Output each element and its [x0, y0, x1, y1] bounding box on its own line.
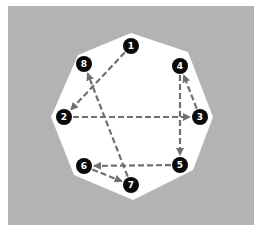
node-8: 8 [76, 56, 92, 72]
node-6: 6 [76, 158, 92, 174]
node-5: 5 [172, 157, 188, 173]
graph-diagram: 12345678 [0, 0, 262, 235]
node-label: 7 [128, 180, 134, 190]
node-7: 7 [123, 177, 139, 193]
node-label: 1 [128, 41, 134, 51]
node-label: 6 [81, 161, 87, 171]
node-2: 2 [56, 109, 72, 125]
node-4: 4 [172, 58, 188, 74]
node-label: 8 [81, 59, 87, 69]
edge-5-to-6 [94, 165, 171, 166]
node-1: 1 [123, 38, 139, 54]
node-label: 3 [197, 112, 203, 122]
node-3: 3 [192, 109, 208, 125]
node-label: 5 [177, 160, 183, 170]
node-label: 4 [177, 61, 183, 71]
node-label: 2 [61, 112, 67, 122]
